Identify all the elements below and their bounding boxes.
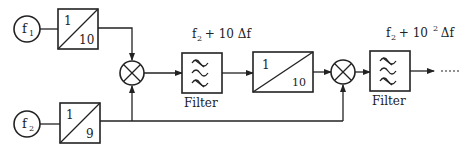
filter-1-label: Filter [184,96,218,110]
divider-3-denominator: 10 [292,76,306,89]
filter-2-freq-mid: + 10 [395,26,428,40]
divider-2-numerator: 1 [66,108,74,122]
source-f1: f 1 [14,16,40,42]
divider-1-denominator: 10 [79,33,94,47]
filter-1: f 2 + 10 Δf Filter [182,27,252,110]
divider-1-9: 1 9 [60,103,100,143]
source-f2: f 2 [14,111,40,137]
source-f2-subscript: 2 [29,124,34,133]
divider-1-10: 1 10 [58,9,98,49]
filter-2: f 2 + 10 2 Δf Filter [370,24,455,108]
divider-1-numerator: 1 [64,14,72,28]
filter-2-label: Filter [372,94,406,108]
source-f1-subscript: 1 [29,29,34,38]
mixer-2 [331,60,355,84]
filter-1-freq-rest: + 10 Δf [201,27,252,41]
mixer-1 [120,61,144,85]
filter-2-freq-rest: Δf [437,26,455,40]
divider-3-1-10: 1 10 [253,52,313,92]
wire-div1-mixer1 [98,28,132,60]
frequency-synthesis-diagram: f 1 1 10 f 2 1 9 f 2 + 10 Δf [0,0,474,150]
divider-3-numerator: 1 [262,58,270,72]
divider-2-denominator: 9 [86,127,94,141]
